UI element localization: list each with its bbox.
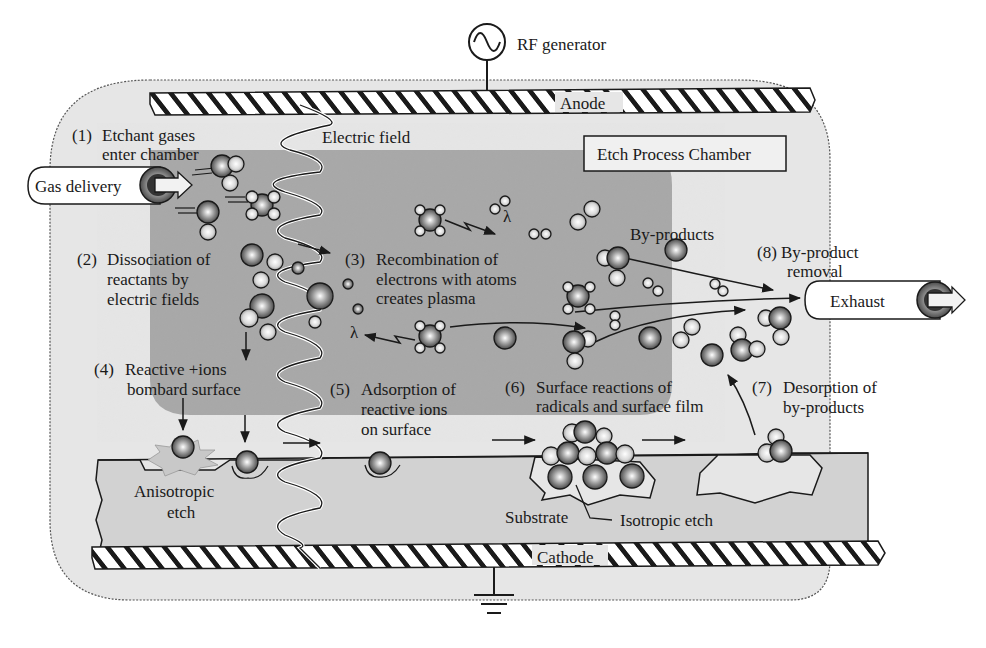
svg-text:by-products: by-products [783,398,864,417]
svg-text:Surface reactions of: Surface reactions of [536,378,672,397]
svg-text:(2): (2) [77,250,97,269]
svg-text:electric fields: electric fields [107,290,199,309]
svg-text:reactive ions: reactive ions [361,400,447,419]
svg-text:By-product: By-product [781,243,859,262]
svg-text:bombard surface: bombard surface [127,380,241,399]
svg-text:removal: removal [787,262,843,281]
etch-diagram: Anode Cathode RF generator Electric fiel… [0,0,986,648]
svg-text:(6): (6) [505,378,525,397]
photon-symbol-2: λ [350,323,359,342]
svg-text:Reactive +ions: Reactive +ions [125,360,227,379]
anode-plate [150,88,815,115]
svg-text:Recombination of: Recombination of [376,250,499,269]
exhaust-pipe[interactable] [805,281,965,319]
svg-text:(3): (3) [345,250,365,269]
exhaust-label: Exhaust [830,292,885,311]
svg-text:radicals and surface film: radicals and surface film [536,397,704,416]
anisotropic-label-1: Anisotropic [134,482,215,501]
svg-text:(8): (8) [757,243,777,262]
svg-text:creates plasma: creates plasma [376,289,476,308]
svg-text:(1): (1) [72,126,92,145]
chamber-label: Etch Process Chamber [597,145,751,164]
photon-symbol-1: λ [503,207,512,226]
rf-generator-label: RF generator [517,35,607,54]
svg-text:enter chamber: enter chamber [102,145,199,164]
isotropic-label: Isotropic etch [620,511,713,530]
svg-text:Desorption of: Desorption of [783,378,877,397]
svg-text:Etchant gases: Etchant gases [102,126,195,145]
svg-text:(4): (4) [94,360,114,379]
svg-text:Dissociation of: Dissociation of [107,250,211,269]
svg-text:on surface: on surface [361,420,431,439]
svg-text:Adsorption of: Adsorption of [361,380,456,399]
svg-text:(5): (5) [330,380,350,399]
svg-text:electrons with atoms: electrons with atoms [376,270,517,289]
cathode-label: Cathode [537,548,594,567]
gas-delivery-label: Gas delivery [35,177,122,196]
electric-field-label: Electric field [322,128,411,147]
substrate-label: Substrate [505,508,568,527]
svg-text:(7): (7) [752,378,772,397]
svg-text:reactants by: reactants by [107,270,189,289]
anode-label: Anode [560,94,605,113]
anisotropic-label-2: etch [167,503,196,522]
